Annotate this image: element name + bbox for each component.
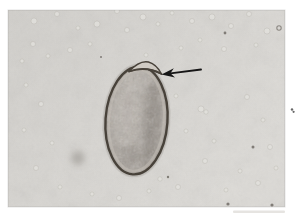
margin-ink-dot (293, 111, 295, 113)
debris-speck (34, 166, 39, 171)
debris-speck (156, 22, 160, 26)
debris-speck (46, 54, 50, 58)
debris-speck (247, 12, 252, 17)
debris-speck (158, 177, 162, 181)
debris-speck (226, 202, 229, 205)
page (0, 0, 295, 219)
debris-speck (147, 189, 151, 193)
debris-speck (224, 188, 228, 192)
debris-speck (245, 95, 250, 100)
debris-speck (252, 146, 255, 149)
debris-speck (22, 128, 26, 132)
debris-speck (144, 53, 148, 57)
debris-speck (140, 14, 146, 20)
debris-speck (94, 21, 100, 27)
debris-speck (264, 28, 270, 34)
debris-speck (20, 59, 24, 63)
debris-speck (90, 192, 94, 196)
debris-speck (58, 185, 62, 189)
debris-speck (268, 145, 273, 150)
debris-speck (256, 181, 261, 186)
debris-speck (198, 38, 202, 42)
micrograph-photo (0, 0, 295, 219)
debris-speck (55, 12, 60, 17)
debris-speck (179, 46, 183, 50)
debris-speck (76, 26, 80, 30)
debris-speck (224, 32, 227, 35)
debris-speck (209, 14, 215, 20)
debris-speck (88, 42, 92, 46)
debris-speck (31, 18, 37, 24)
debris-speck (198, 106, 204, 112)
page-artifact-smear (233, 211, 285, 214)
debris-smudge (71, 151, 85, 165)
debris-speck (50, 141, 54, 145)
debris-speck (68, 48, 73, 53)
debris-speck (125, 28, 130, 33)
photo-field (8, 9, 285, 208)
debris-speck (270, 203, 273, 206)
debris-speck (212, 139, 216, 143)
debris-speck (174, 94, 178, 98)
debris-speck (261, 118, 265, 122)
debris-speck (100, 56, 102, 58)
debris-speck (274, 166, 278, 170)
debris-speck (117, 196, 122, 201)
debris-speck (238, 169, 242, 173)
debris-speck (184, 129, 188, 133)
micrograph-canvas (0, 0, 295, 219)
debris-speck (222, 47, 227, 52)
debris-speck (170, 11, 174, 15)
debris-speck (203, 159, 208, 164)
debris-speck (204, 110, 208, 114)
debris-speck (254, 43, 258, 47)
debris-speck (24, 83, 28, 87)
debris-speck (167, 176, 169, 178)
margin-ink-dot (291, 108, 293, 110)
debris-speck (176, 185, 181, 190)
debris-speck (190, 19, 195, 24)
debris-speck (39, 102, 44, 107)
debris-speck (31, 42, 36, 47)
debris-speck (229, 24, 234, 29)
